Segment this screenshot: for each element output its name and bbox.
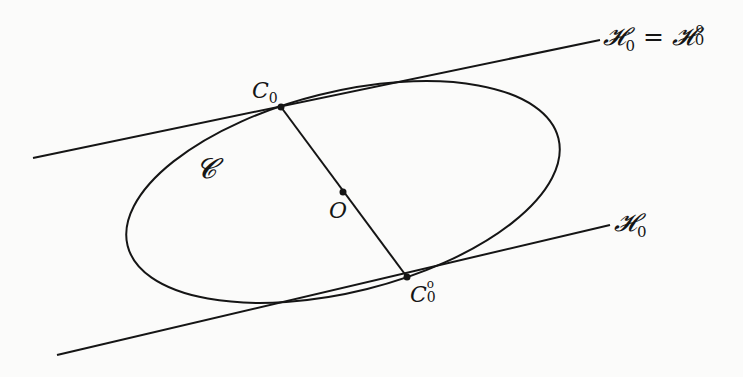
point-c0-circ <box>404 274 411 281</box>
label-c0: C0 <box>252 80 278 102</box>
label-sub-0: 0 <box>269 90 278 106</box>
label-sub-0: 0 <box>625 37 635 55</box>
label-h-script: 𝓗 <box>603 22 626 51</box>
label-o: O <box>329 200 347 222</box>
label-h-script: 𝓗 <box>614 208 637 237</box>
label-curve-c: 𝓒 <box>196 155 216 183</box>
diagram-figure: 𝓗′0 = 𝓗o0 𝓗0 𝓒 C0 O Co0 <box>0 0 743 377</box>
label-equals: = <box>635 22 672 51</box>
point-c0 <box>278 104 285 111</box>
label-c0-circ: Co0 <box>410 282 437 306</box>
label-sub-0-2: 0 <box>695 33 705 48</box>
label-sub-0: 0 <box>637 223 647 241</box>
diagram-canvas <box>0 0 743 377</box>
label-c: C <box>410 282 427 307</box>
point-o <box>340 189 347 196</box>
upper-tangent-line <box>33 40 600 158</box>
label-sub-0: 0 <box>427 290 436 304</box>
label-upper-line: 𝓗′0 = 𝓗o0 <box>603 24 706 49</box>
label-h-script-2: 𝓗 <box>672 22 695 51</box>
label-lower-line: 𝓗0 <box>614 210 647 235</box>
label-c: C <box>252 78 269 103</box>
lower-tangent-line <box>57 225 610 355</box>
